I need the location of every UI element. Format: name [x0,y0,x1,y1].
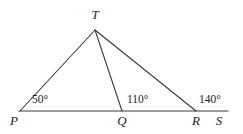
vertex-label-Q: Q [117,114,126,127]
segment-TQ-line [95,30,122,111]
geometry-figure: T P Q R S 50° 110° 140° [0,0,243,134]
vertex-label-P: P [10,114,18,127]
vertex-label-R: R [192,114,200,127]
vertex-label-T: T [91,8,98,21]
angle-label-at-R: 140° [199,94,221,106]
angle-label-at-Q: 110° [127,94,148,106]
vertex-label-S: S [216,114,223,127]
angle-label-at-P: 50° [32,94,48,106]
